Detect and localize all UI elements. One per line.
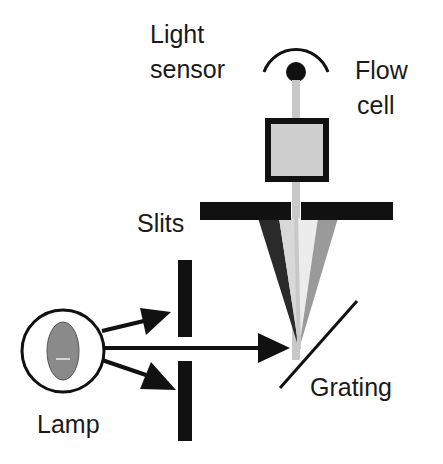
label-flow-cell-1: Flow: [355, 56, 409, 84]
arrow-head-icon: [258, 333, 290, 363]
entrance-slits: [178, 260, 192, 441]
sensor-dot-icon: [286, 62, 306, 82]
label-slits: Slits: [137, 209, 184, 237]
arrow-head-icon: [140, 308, 171, 335]
lamp: [22, 310, 104, 392]
label-light-sensor-1: Light: [150, 20, 204, 48]
light-sensor: [264, 49, 328, 82]
detector-diagram: Light sensor Flow cell Slits Grating Lam…: [0, 0, 443, 464]
spectrum-fan: [258, 218, 338, 349]
flow-cell: [268, 121, 326, 179]
label-light-sensor-2: sensor: [150, 55, 225, 83]
label-lamp: Lamp: [37, 410, 100, 438]
label-flow-cell-2: cell: [357, 91, 395, 119]
arrow-head-icon: [140, 362, 176, 390]
lamp-bulb-icon: [47, 322, 79, 380]
label-grating: Grating: [310, 373, 392, 401]
light-arrows: [102, 308, 290, 390]
